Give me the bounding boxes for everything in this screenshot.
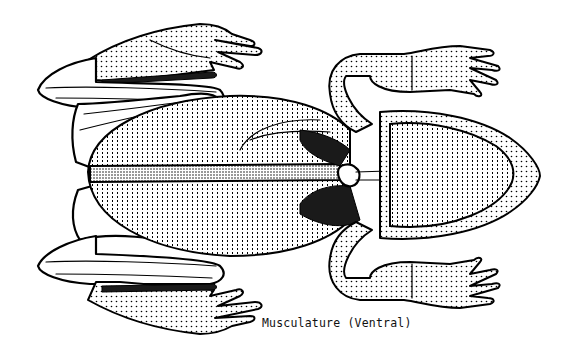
figure-caption: Musculature (Ventral) xyxy=(262,316,412,330)
frog-musculature-illustration xyxy=(0,0,570,355)
upper-hind-foot xyxy=(88,24,262,84)
lower-hind-foot xyxy=(88,282,262,334)
head xyxy=(380,111,540,239)
midline xyxy=(90,164,340,182)
